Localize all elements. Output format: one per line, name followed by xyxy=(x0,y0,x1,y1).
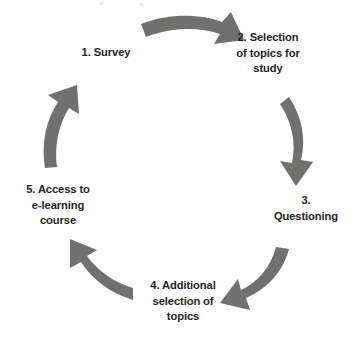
arrow-3-to-4-icon xyxy=(220,247,289,310)
arrow-5-to-1-icon xyxy=(44,85,79,168)
scan-artifact xyxy=(140,3,143,6)
arrow-4-to-5-icon xyxy=(70,239,133,300)
node-label-questioning: 3. Questioning xyxy=(258,193,354,224)
node-label-survey: 1. Survey xyxy=(58,45,154,61)
arrow-2-to-3-icon xyxy=(280,97,313,186)
node-label-elearning-access: 5. Access to e-learning course xyxy=(12,182,104,229)
scan-artifact xyxy=(100,2,103,5)
node-label-selection-topics: 2. Selection of topics for study xyxy=(222,30,314,77)
cycle-diagram: 1. Survey 2. Selection of topics for stu… xyxy=(0,0,360,342)
node-label-additional-topics: 4. Additional selection of topics xyxy=(136,278,230,325)
